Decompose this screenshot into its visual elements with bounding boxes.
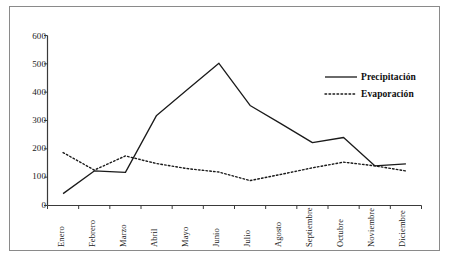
series-line-evaporacion	[63, 153, 406, 181]
chart-plot-area	[0, 0, 451, 261]
series-line-precipitacion	[63, 63, 406, 193]
axis-lines	[48, 36, 422, 206]
chart-figure: 600 500 400 300 200 100 0 Enero Febrero …	[0, 0, 451, 261]
